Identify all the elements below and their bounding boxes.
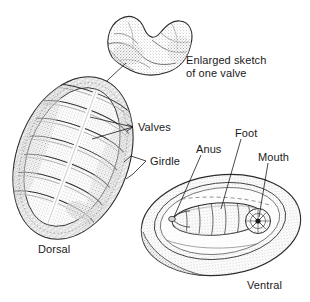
label-enlarged-sketch: Enlarged sketchof one valve <box>186 54 266 79</box>
enlarged-valve-sketch <box>108 16 193 74</box>
label-enlarged-sketch-line1: Enlarged sketch <box>186 54 266 66</box>
ventral-anus <box>169 216 176 221</box>
ventral-mouth <box>246 209 271 234</box>
label-dorsal: Dorsal <box>38 243 70 256</box>
label-anus: Anus <box>196 143 221 156</box>
label-girdle: Girdle <box>150 155 180 168</box>
label-valves: Valves <box>138 121 171 134</box>
label-mouth: Mouth <box>258 151 289 164</box>
anus-opening <box>169 216 176 221</box>
chiton-anatomy-figure: Enlarged sketchof one valve Valves Girdl… <box>0 0 310 302</box>
label-enlarged-sketch-line2: of one valve <box>186 67 247 79</box>
ventral-view-body <box>136 166 307 285</box>
dorsal-view-body <box>0 60 154 256</box>
mouth-aperture <box>255 218 260 223</box>
label-foot: Foot <box>235 127 257 140</box>
label-ventral: Ventral <box>247 279 282 292</box>
